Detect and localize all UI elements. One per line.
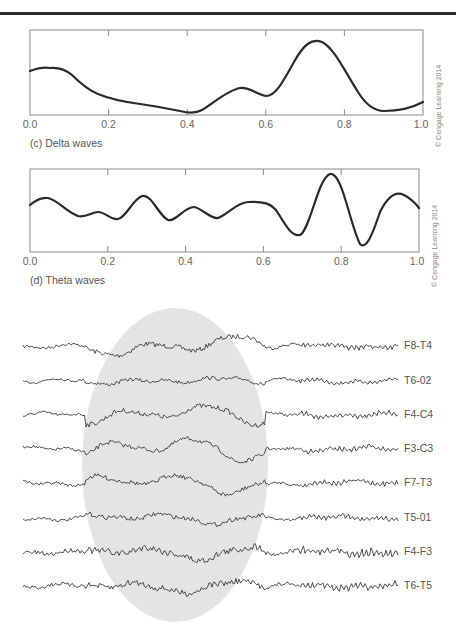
theta-tick-5: 1.0 <box>410 255 425 267</box>
lead-label-f3-c3: F3-C3 <box>404 442 433 454</box>
lead-label-f4-f3: F4-F3 <box>404 545 432 557</box>
lead-label-t6-02: T6-02 <box>404 374 432 386</box>
delta-plot-frame <box>30 30 423 115</box>
eeg-panel: F8-T4 T6-02 F4-C4 F3-C3 F7-T3 T5-01 F4-F… <box>23 308 433 622</box>
lead-label-f8-t4: F8-T4 <box>404 339 432 351</box>
theta-chart: 0.0 0.2 0.4 0.6 0.8 1.0 (d) Theta waves … <box>23 169 439 287</box>
theta-tick-4: 0.8 <box>334 255 349 267</box>
delta-caption: (c) Delta waves <box>30 137 102 149</box>
synchrony-highlight-ellipse <box>82 308 268 622</box>
lead-label-f7-t3: F7-T3 <box>404 476 432 488</box>
theta-plot-frame <box>30 169 419 252</box>
theta-tick-1: 0.2 <box>100 255 115 267</box>
theta-caption: (d) Theta waves <box>30 274 105 286</box>
delta-tick-4: 0.8 <box>337 118 352 130</box>
theta-tick-3: 0.6 <box>256 255 271 267</box>
delta-tick-5: 1.0 <box>414 118 429 130</box>
theta-credit: © Cengage Learning 2014 <box>431 205 439 287</box>
delta-tick-1: 0.2 <box>101 118 116 130</box>
theta-tick-0: 0.0 <box>23 255 38 267</box>
lead-label-f4-c4: F4-C4 <box>404 408 433 420</box>
theta-curve <box>30 174 419 246</box>
delta-tick-2: 0.4 <box>180 118 195 130</box>
delta-tick-3: 0.6 <box>258 118 273 130</box>
delta-curve <box>30 41 423 113</box>
delta-credit: © Cengage Learning 2014 <box>435 65 443 147</box>
theta-tick-2: 0.4 <box>178 255 193 267</box>
delta-tick-0: 0.0 <box>23 118 38 130</box>
lead-label-t5-01: T5-01 <box>404 511 432 523</box>
figure: 0.0 0.2 0.4 0.6 0.8 1.0 (c) Delta waves … <box>0 0 456 627</box>
delta-chart: 0.0 0.2 0.4 0.6 0.8 1.0 (c) Delta waves … <box>23 30 443 149</box>
lead-label-t6-t5: T6-T5 <box>404 579 432 591</box>
theta-ticks <box>108 169 341 252</box>
